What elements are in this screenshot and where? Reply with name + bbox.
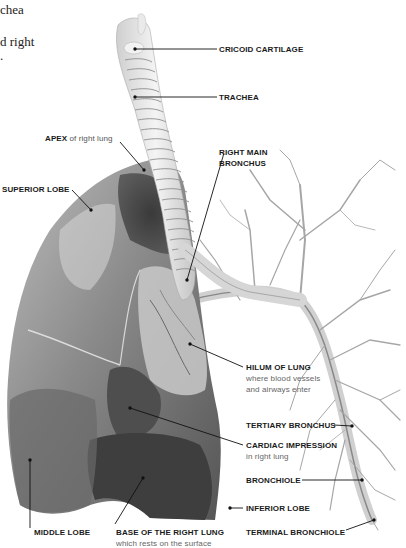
label-base-of-right-lung: BASE OF THE RIGHT LUNG which rests on th… xyxy=(116,527,224,548)
label-inferior-lobe: INFERIOR LOBE xyxy=(246,503,310,514)
label-cricoid-cartilage: CRICOID CARTILAGE xyxy=(219,44,303,55)
label-terminal-bronchiole: TERMINAL BRONCHIOLE xyxy=(246,527,345,538)
label-tertiary-bronchus: TERTIARY BRONCHUS xyxy=(246,420,336,431)
lung-anatomy-diagram: chea d right . xyxy=(0,0,406,548)
bronchial-tree xyxy=(190,150,400,530)
label-hilum-of-lung: HILUM OF LUNG where blood vessels and ai… xyxy=(246,362,320,395)
label-middle-lobe: MIDDLE LOBE xyxy=(34,527,90,538)
right-lung xyxy=(7,159,221,520)
label-bronchiole: BRONCHIOLE xyxy=(246,475,301,486)
label-cardiac-impression: CARDIAC IMPRESSION in right lung xyxy=(246,440,337,462)
label-apex: APEX of right lung xyxy=(45,133,113,144)
label-right-main-bronchus: RIGHT MAIN BRONCHUS xyxy=(219,147,268,169)
label-superior-lobe: SUPERIOR LOBE xyxy=(2,184,70,195)
lung-illustration xyxy=(0,0,406,548)
label-trachea: TRACHEA xyxy=(219,92,259,103)
